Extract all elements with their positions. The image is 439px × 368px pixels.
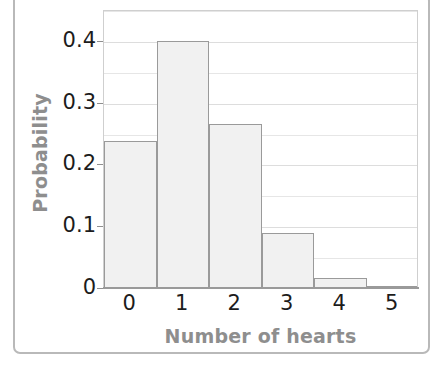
y-tick-mark [97, 288, 103, 289]
x-tick-label: 1 [156, 293, 209, 314]
x-axis-title: Number of hearts [103, 325, 418, 347]
x-tick-label: 2 [208, 293, 261, 314]
y-tick-mark [97, 164, 103, 165]
x-axis-line [103, 287, 419, 289]
bar [104, 141, 157, 287]
x-tick-label: 3 [261, 293, 314, 314]
x-tick-label: 4 [313, 293, 366, 314]
y-tick-label: 0 [36, 277, 96, 298]
y-tick-mark [97, 41, 103, 42]
bar [209, 124, 262, 287]
plot-area [103, 10, 418, 288]
probability-bar-chart: 00.10.20.30.4 012345 Number of hearts Pr… [0, 0, 439, 368]
bar [314, 278, 367, 287]
y-tick-mark [97, 226, 103, 227]
bar [157, 41, 209, 287]
x-tick-label: 5 [366, 293, 419, 314]
x-axis-tick-labels: 012345 [103, 293, 418, 323]
x-tick-label: 0 [103, 293, 156, 314]
y-tick-mark [97, 103, 103, 104]
bar-series [104, 11, 417, 287]
y-axis-title: Probability [29, 43, 51, 263]
bar [262, 233, 314, 287]
